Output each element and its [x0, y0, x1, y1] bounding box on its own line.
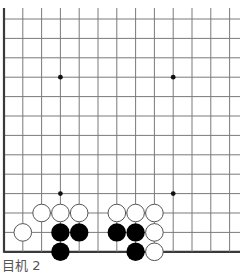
star-point-icon [58, 75, 63, 80]
white-stone[interactable] [146, 204, 164, 222]
black-stone[interactable] [70, 223, 88, 241]
star-point-icon [171, 75, 176, 80]
star-point-icon [171, 191, 176, 196]
go-board[interactable] [0, 0, 246, 262]
white-stone[interactable] [33, 204, 51, 222]
star-point-icon [58, 191, 63, 196]
black-stone[interactable] [126, 243, 144, 261]
white-stone[interactable] [146, 224, 164, 242]
black-stone[interactable] [51, 243, 69, 261]
diagram-caption: 目机 2 [2, 258, 40, 273]
white-stone[interactable] [70, 204, 88, 222]
white-stone[interactable] [14, 224, 32, 242]
black-stone[interactable] [108, 223, 126, 241]
white-stone[interactable] [146, 243, 164, 261]
black-stone[interactable] [51, 223, 69, 241]
white-stone[interactable] [127, 204, 145, 222]
white-stone[interactable] [108, 204, 126, 222]
black-stone[interactable] [126, 223, 144, 241]
white-stone[interactable] [52, 204, 70, 222]
